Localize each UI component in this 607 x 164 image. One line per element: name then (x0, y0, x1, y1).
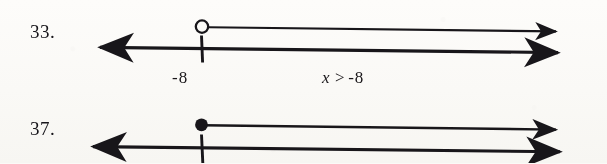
tick-mark-37 (202, 135, 203, 164)
solution-ray-37 (203, 125, 556, 129)
number-line-axis-37 (93, 147, 560, 152)
filled-circle-endpoint-37 (195, 118, 208, 131)
worksheet-page: 33. -8 x>-8 37. (0, 0, 607, 163)
number-line-graph-37 (0, 0, 607, 163)
